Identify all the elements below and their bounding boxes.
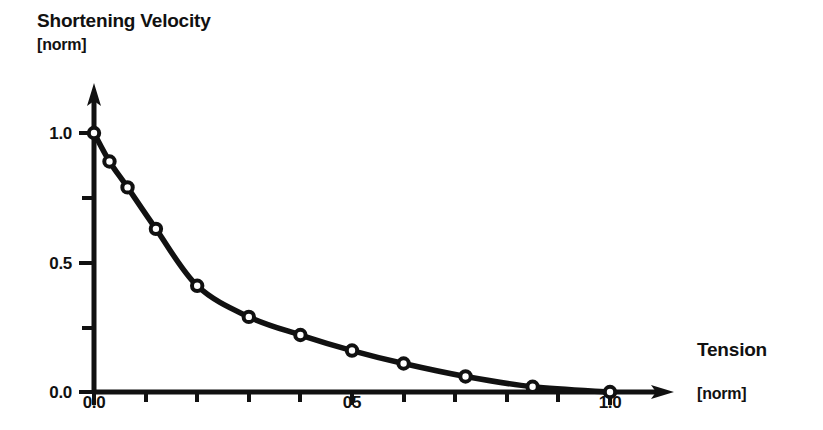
data-markers (89, 128, 615, 397)
data-point-marker (151, 224, 161, 234)
data-point-marker (244, 312, 254, 322)
data-point-marker (104, 156, 114, 166)
data-point-marker (398, 358, 408, 368)
data-point-marker (89, 128, 99, 138)
data-point-marker (527, 382, 537, 392)
data-point-marker (122, 182, 132, 192)
data-point-marker (460, 371, 470, 381)
data-point-marker (605, 387, 615, 397)
plot-area (0, 0, 823, 430)
force-velocity-chart: Shortening Velocity [norm] Tension [norm… (0, 0, 823, 430)
data-point-marker (192, 281, 202, 291)
data-point-marker (295, 330, 305, 340)
data-point-marker (347, 345, 357, 355)
